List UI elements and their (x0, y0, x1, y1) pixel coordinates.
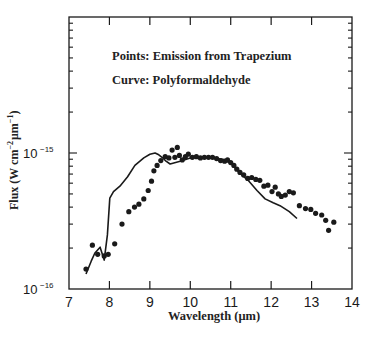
y-tick-label: 10 (23, 146, 37, 161)
data-point (241, 172, 246, 177)
data-point (170, 148, 175, 153)
data-point (151, 168, 156, 173)
data-point (158, 158, 163, 163)
data-point (319, 212, 324, 217)
x-tick-label: 10 (182, 294, 198, 310)
y-tick-exponent: −15 (40, 145, 54, 154)
data-point (177, 153, 182, 158)
x-axis-tick-labels: 7891011121314 (65, 294, 360, 310)
data-point (155, 163, 160, 168)
data-point (90, 243, 95, 248)
annotation-points: Points: Emission from Trapezium (112, 49, 292, 64)
data-point (313, 211, 318, 216)
data-point (291, 190, 296, 195)
data-point (269, 189, 274, 194)
data-point (106, 252, 111, 257)
y-axis-tick-labels: 10−1610−15 (23, 145, 54, 297)
x-tick-label: 13 (304, 294, 320, 310)
data-point (273, 185, 278, 190)
data-point (265, 183, 270, 188)
x-axis-label: Wavelength (μm) (168, 309, 260, 324)
data-point (146, 188, 151, 193)
data-point (323, 218, 328, 223)
polyformaldehyde-curve (86, 153, 297, 274)
data-point (326, 228, 331, 233)
data-point (132, 205, 137, 210)
data-point (149, 179, 154, 184)
data-point (283, 193, 288, 198)
data-point (303, 206, 308, 211)
annotation-curve: Curve: Polyformaldehyde (112, 73, 251, 88)
data-point (126, 209, 131, 214)
data-point (166, 155, 171, 160)
data-point (308, 207, 313, 212)
data-point (175, 145, 180, 150)
x-tick-label: 12 (263, 294, 279, 310)
x-tick-label: 11 (223, 294, 238, 310)
data-point (257, 178, 262, 183)
data-point (83, 267, 88, 272)
data-point (297, 203, 302, 208)
x-tick-label: 7 (65, 294, 73, 310)
x-tick-label: 8 (106, 294, 114, 310)
y-axis-label: Flux (W cm−2 μm−1) (6, 111, 22, 210)
data-point (112, 241, 117, 246)
data-point (95, 252, 100, 257)
x-tick-label: 9 (146, 294, 154, 310)
data-point (331, 220, 336, 225)
data-point (136, 202, 141, 207)
x-tick-label: 14 (344, 294, 360, 310)
y-tick-label: 10 (23, 282, 37, 297)
data-point (141, 196, 146, 201)
data-point (119, 222, 124, 227)
trapezium-emission-points (83, 145, 336, 272)
data-point (172, 155, 177, 160)
y-tick-exponent: −16 (40, 281, 54, 290)
